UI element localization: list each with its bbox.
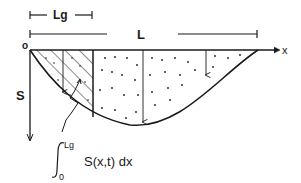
x-axis-label: x <box>282 44 288 56</box>
integral-lower-limit: 0 <box>59 172 64 182</box>
integral-expression: Lg 0 S(x,t) dx <box>52 140 133 182</box>
lg-dimension: Lg <box>30 8 92 22</box>
l-dimension: L <box>30 27 257 42</box>
lg-label: Lg <box>53 8 68 22</box>
x-axis-arrow-icon <box>274 47 280 53</box>
origin-label: o <box>22 40 28 51</box>
integral-upper-limit: Lg <box>64 140 74 150</box>
integrand: S(x,t) dx <box>84 154 133 169</box>
integral-profile-diagram: x S o Lg L Lg 0 S(x,t) dx <box>0 0 301 183</box>
s-axis-label: S <box>16 88 25 103</box>
hatched-region <box>30 50 93 130</box>
l-label: L <box>137 27 145 42</box>
